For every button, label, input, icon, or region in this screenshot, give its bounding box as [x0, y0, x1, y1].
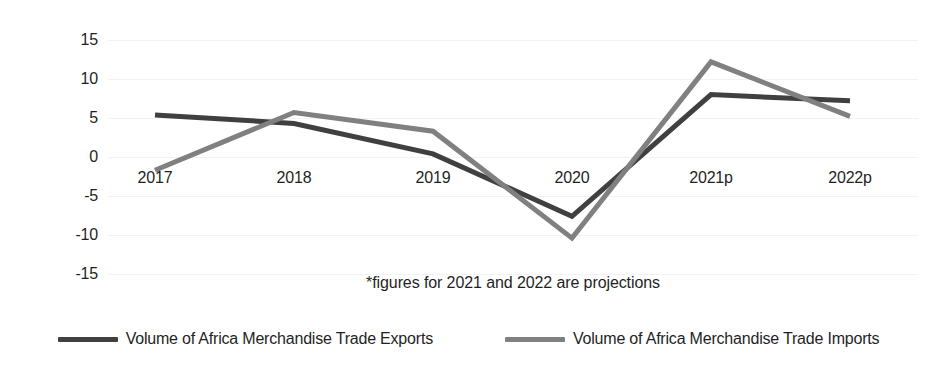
chart-footnote: *figures for 2021 and 2022 are projectio… [108, 274, 918, 292]
x-tick-label: 2021p [689, 169, 733, 187]
line-chart: Annual % Change 151050-5-10-15 201720182… [0, 0, 937, 381]
y-tick-label: 10 [0, 70, 108, 88]
legend-swatch [58, 337, 118, 342]
y-tick-label: 0 [0, 148, 108, 166]
legend-item[interactable]: Volume of Africa Merchandise Trade Impor… [505, 330, 879, 348]
y-tick-label: -15 [0, 265, 108, 283]
series-lines [108, 0, 918, 381]
legend-swatch [505, 337, 565, 342]
x-tick-label: 2020 [555, 169, 590, 187]
y-tick-label: -10 [0, 226, 108, 244]
x-tick-label: 2017 [138, 169, 173, 187]
series-line [155, 62, 850, 238]
legend-label: Volume of Africa Merchandise Trade Expor… [126, 330, 433, 348]
plot-area: 20172018201920202021p2022p *figures for … [108, 0, 918, 381]
y-tick-label: -5 [0, 187, 108, 205]
legend-item[interactable]: Volume of Africa Merchandise Trade Expor… [58, 330, 433, 348]
chart-legend: Volume of Africa Merchandise Trade Expor… [0, 330, 937, 348]
y-tick-label: 5 [0, 109, 108, 127]
series-line [155, 95, 850, 217]
y-axis-tick-labels: 151050-5-10-15 [0, 0, 108, 381]
x-tick-label: 2018 [277, 169, 312, 187]
legend-label: Volume of Africa Merchandise Trade Impor… [573, 330, 879, 348]
x-tick-label: 2019 [416, 169, 451, 187]
x-tick-label: 2022p [828, 169, 872, 187]
y-tick-label: 15 [0, 31, 108, 49]
